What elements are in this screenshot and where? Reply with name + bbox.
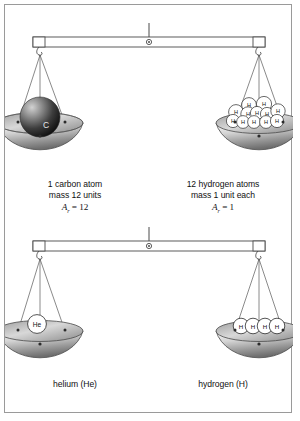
svg-text:H: H [234, 109, 238, 115]
carbon-caption-line3: Ar = 12 [5, 202, 145, 217]
bottom-balance: He H H [5, 219, 293, 389]
carbon-atom-symbol: C [43, 120, 49, 130]
carbon-ar-value: = 12 [72, 202, 88, 212]
top-balance: C [5, 5, 293, 185]
helium-atom-icon: He [28, 315, 47, 334]
hydrogen-twelve-caption-line3: Ar = 1 [153, 202, 293, 217]
carbon-caption-line1: 1 carbon atom [5, 179, 145, 190]
hydrogen-ar-value: = 1 [222, 202, 234, 212]
helium-atom-symbol: He [33, 321, 42, 328]
hydrogen-four-caption-line1: hydrogen (H) [153, 379, 293, 390]
figure-frame: C [4, 4, 292, 413]
hydrogen-twelve-caption: 12 hydrogen atoms mass 1 unit each Ar = … [153, 179, 293, 217]
carbon-atom-sphere-icon [20, 97, 60, 137]
svg-text:H: H [241, 119, 245, 125]
hydrogen-twelve-caption-line1: 12 hydrogen atoms [153, 179, 293, 190]
hydrogen-pan-twelve: H H H H H H H H [216, 96, 293, 149]
svg-text:H: H [239, 323, 243, 330]
svg-text:H: H [262, 101, 266, 107]
carbon-caption: 1 carbon atom mass 12 units Ar = 12 [5, 179, 145, 217]
hydrogen-atom-row-icon: H H H H [233, 318, 285, 334]
top-balance-graphic: C [5, 5, 293, 185]
svg-text:H: H [264, 119, 268, 125]
right-hanger-hook-icon [256, 251, 261, 259]
carbon-caption-line2: mass 12 units [5, 190, 145, 201]
svg-text:H: H [263, 323, 267, 330]
svg-text:H: H [252, 119, 256, 125]
left-hanger-hook-icon [37, 251, 42, 259]
svg-text:H: H [275, 118, 279, 124]
bottom-balance-graphic: He H H [5, 219, 293, 389]
hydrogen-pan-four: H H H H [216, 318, 293, 358]
hydrogen-atom-cluster-icon: H H H H H H H H [226, 96, 285, 128]
right-hanger-hook-icon [256, 47, 261, 55]
helium-caption: helium (He) [5, 379, 145, 390]
helium-caption-line1: helium (He) [5, 379, 145, 390]
balance-beam [33, 37, 265, 47]
helium-pan: He [5, 315, 83, 358]
svg-text:H: H [255, 110, 259, 116]
hydrogen-twelve-caption-line2: mass 1 unit each [153, 190, 293, 201]
hydrogen-ar-subscript: r [217, 208, 219, 214]
svg-text:H: H [246, 111, 250, 117]
left-hanger-hook-icon [37, 47, 42, 55]
svg-text:H: H [276, 108, 280, 114]
carbon-pan: C [5, 97, 83, 150]
hydrogen-four-caption: hydrogen (H) [153, 379, 293, 390]
svg-text:H: H [251, 323, 255, 330]
svg-text:H: H [275, 323, 279, 330]
balance-beam [33, 241, 265, 251]
carbon-ar-subscript: r [67, 208, 69, 214]
